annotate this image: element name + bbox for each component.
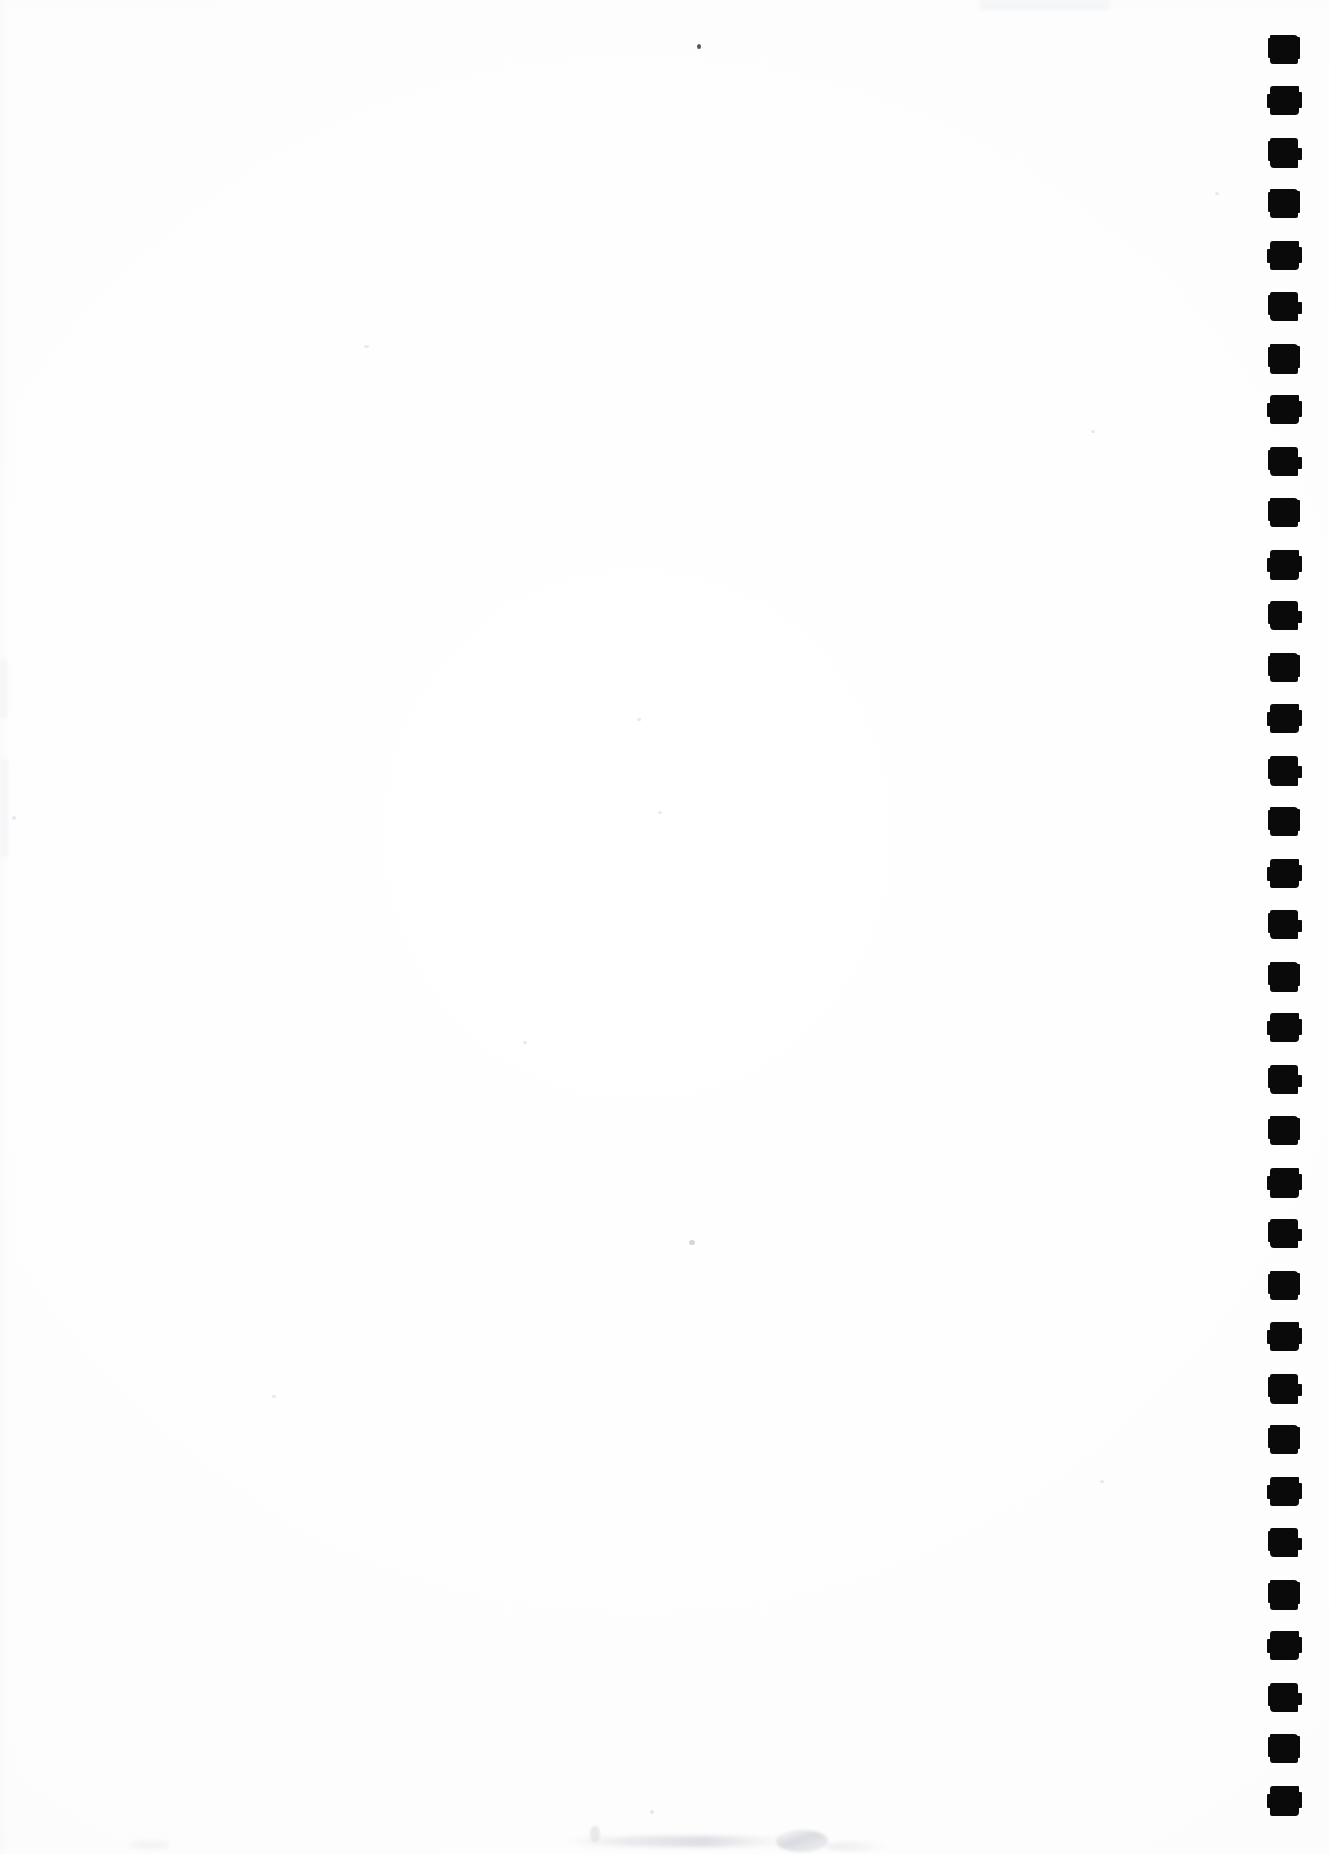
- registration-marker-square: [1270, 1013, 1299, 1042]
- registration-marker-square: [1270, 550, 1299, 580]
- scanned-page: [0, 0, 1329, 1854]
- registration-marker-square: [1270, 859, 1299, 888]
- registration-marker-column: [1262, 0, 1308, 1854]
- registration-marker-square: [1270, 344, 1298, 374]
- registration-marker-square: [1270, 704, 1299, 733]
- registration-marker-square: [1270, 1528, 1298, 1557]
- registration-marker-square: [1270, 1374, 1298, 1404]
- registration-marker-square: [1270, 1219, 1298, 1248]
- registration-marker-square: [1270, 653, 1298, 682]
- registration-marker-square: [1270, 498, 1298, 527]
- registration-marker-square: [1270, 756, 1298, 786]
- registration-marker-square: [1270, 189, 1298, 218]
- registration-marker-square: [1270, 1631, 1299, 1660]
- registration-marker-square: [1270, 86, 1299, 115]
- registration-marker-square: [1270, 241, 1299, 270]
- registration-marker-square: [1270, 138, 1298, 168]
- registration-marker-square: [1270, 601, 1298, 630]
- registration-marker-square: [1270, 1271, 1298, 1300]
- registration-marker-square: [1270, 1734, 1298, 1763]
- registration-marker-square: [1270, 1580, 1298, 1610]
- registration-marker-square: [1270, 962, 1298, 992]
- registration-marker-square: [1270, 1065, 1298, 1094]
- registration-marker-square: [1270, 1116, 1298, 1145]
- registration-marker-square: [1270, 1322, 1299, 1351]
- registration-marker-square: [1270, 1425, 1298, 1454]
- registration-marker-square: [1270, 807, 1298, 836]
- registration-marker-square: [1270, 395, 1299, 424]
- registration-marker-square: [1270, 1786, 1299, 1816]
- registration-marker-square: [1270, 1683, 1298, 1712]
- paper-background: [0, 0, 1329, 1854]
- registration-marker-square: [1270, 1168, 1299, 1198]
- registration-marker-square: [1270, 35, 1298, 64]
- registration-marker-square: [1270, 447, 1298, 476]
- registration-marker-square: [1270, 1477, 1299, 1506]
- registration-marker-square: [1270, 910, 1298, 939]
- registration-marker-square: [1270, 292, 1298, 321]
